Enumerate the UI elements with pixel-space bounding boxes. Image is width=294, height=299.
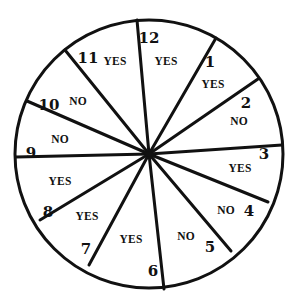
- spoke-number-8: 8: [43, 203, 53, 221]
- spoke-number-3: 3: [259, 145, 269, 163]
- sector-answer-2-3: NO: [230, 115, 248, 127]
- spoke-number-1: 1: [205, 53, 215, 71]
- spoke-number-7: 7: [81, 240, 91, 258]
- spoke-number-5: 5: [205, 238, 215, 256]
- sector-answer-10-11: NO: [69, 95, 87, 107]
- sector-answer-1-2: YES: [202, 78, 225, 90]
- sector-answer-9-10: NO: [51, 133, 69, 145]
- spoke-number-2: 2: [241, 94, 251, 112]
- spoke-number-4: 4: [244, 202, 254, 220]
- spoke-number-9: 9: [26, 144, 36, 162]
- sector-answer-4-5: NO: [217, 204, 235, 216]
- spoke-number-11: 11: [78, 49, 99, 67]
- sector-answer-12-1: YES: [155, 55, 178, 67]
- sector-answer-11-12: YES: [104, 55, 127, 67]
- wheel-hub: [146, 151, 152, 157]
- spoke-number-10: 10: [39, 96, 60, 114]
- sector-answer-7-8: YES: [76, 210, 99, 222]
- sector-answer-6-7: YES: [120, 233, 143, 245]
- spoke-number-6: 6: [148, 262, 158, 280]
- spinner-wheel: 121234567891011 YESYESNOYESNONOYESYESYES…: [0, 0, 294, 299]
- spoke-number-12: 12: [139, 29, 160, 47]
- sector-answer-8-9: YES: [49, 175, 72, 187]
- sector-answer-5-6: NO: [177, 230, 195, 242]
- sector-answer-3-4: YES: [229, 162, 252, 174]
